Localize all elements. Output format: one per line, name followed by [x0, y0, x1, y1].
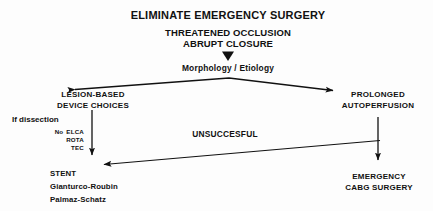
device-prefix-1: No	[55, 128, 64, 135]
outcome-right-line-2: CABG SURGERY	[345, 183, 412, 193]
unsuccessful-label: UNSUCCESFUL	[192, 129, 257, 140]
device-list: NoELCA ROTA TEC	[34, 128, 84, 152]
unsuccessful-diagonal-arrow	[104, 141, 380, 165]
branch-right-line-1: PROLONGED	[351, 90, 405, 100]
diagram-title: ELIMINATE EMERGENCY SURGERY	[131, 8, 326, 22]
branch-left-line-1: LESION-BASED	[61, 90, 124, 100]
flowchart-diagram: ELIMINATE EMERGENCY SURGERY THREATENED O…	[0, 0, 433, 211]
outcome-right-line-1: EMERGENCY	[352, 172, 405, 182]
problem-line-2: ABRUPT CLOSURE	[183, 38, 273, 50]
device-name-1: ELCA	[66, 128, 84, 135]
dissection-condition: If dissection	[12, 115, 59, 125]
device-row-1: NoELCA	[34, 128, 84, 136]
device-row-2: ROTA	[34, 136, 84, 144]
branch-split-arrow	[75, 78, 333, 91]
device-row-3: TEC	[34, 144, 84, 152]
device-name-2: ROTA	[66, 136, 84, 143]
outcome-left-line-1: STENT	[50, 169, 76, 179]
device-name-3: TEC	[71, 144, 84, 151]
outcome-left-line-3: Palmaz-Schatz	[50, 195, 106, 205]
decision-arrowhead	[222, 52, 234, 62]
branch-left-line-2: DEVICE CHOICES	[57, 101, 129, 111]
outcome-left-line-2: Gianturco-Roubin	[50, 182, 118, 192]
decision-node: Morphology / Etiology	[182, 63, 274, 74]
branch-right-line-2: AUTOPERFUSION	[342, 101, 414, 111]
